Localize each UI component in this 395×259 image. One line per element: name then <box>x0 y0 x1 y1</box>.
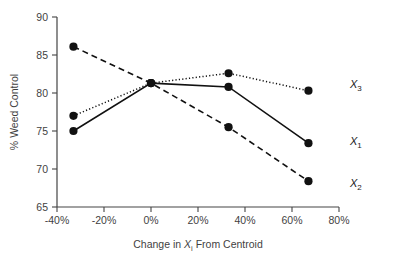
y-tick-label-65: 65 <box>36 201 48 213</box>
y-tick-label-80: 80 <box>36 87 48 99</box>
data-point <box>304 177 312 185</box>
y-axis-title: % Weed Control <box>8 74 20 150</box>
x-tick-label-60: 60% <box>281 214 302 226</box>
series-label-x3-sub: 3 <box>357 84 362 93</box>
data-point <box>224 83 232 91</box>
data-point <box>69 43 77 51</box>
y-tick-label-90: 90 <box>36 11 48 23</box>
data-point <box>69 127 77 135</box>
x-axis-title-pre: Change in <box>133 238 184 250</box>
y-tick-label-75: 75 <box>36 125 48 137</box>
data-point <box>69 112 77 120</box>
y-tick-label-70: 70 <box>36 163 48 175</box>
series-label-x2-sub: 2 <box>357 183 362 192</box>
data-point <box>304 139 312 147</box>
x-tick-label-80: 80% <box>328 214 349 226</box>
x-axis-title-post: From Centroid <box>193 238 263 250</box>
weed-control-line-chart: 90 85 80 75 70 65 -40% -20% 0% 20% 40% 6… <box>0 0 395 259</box>
x-tick-label-20: 20% <box>187 214 208 226</box>
data-point <box>224 123 232 131</box>
y-tick-label-85: 85 <box>36 49 48 61</box>
data-point <box>147 79 155 87</box>
data-point <box>224 69 232 77</box>
x-tick-label-40: 40% <box>234 214 255 226</box>
x-tick-label-neg20: -20% <box>92 214 117 226</box>
x-tick-label-0: 0% <box>143 214 158 226</box>
chart-figure: 90 85 80 75 70 65 -40% -20% 0% 20% 40% 6… <box>0 0 395 259</box>
data-point <box>304 87 312 95</box>
x-tick-label-neg40: -40% <box>45 214 70 226</box>
series-label-x1-sub: 1 <box>357 141 362 150</box>
